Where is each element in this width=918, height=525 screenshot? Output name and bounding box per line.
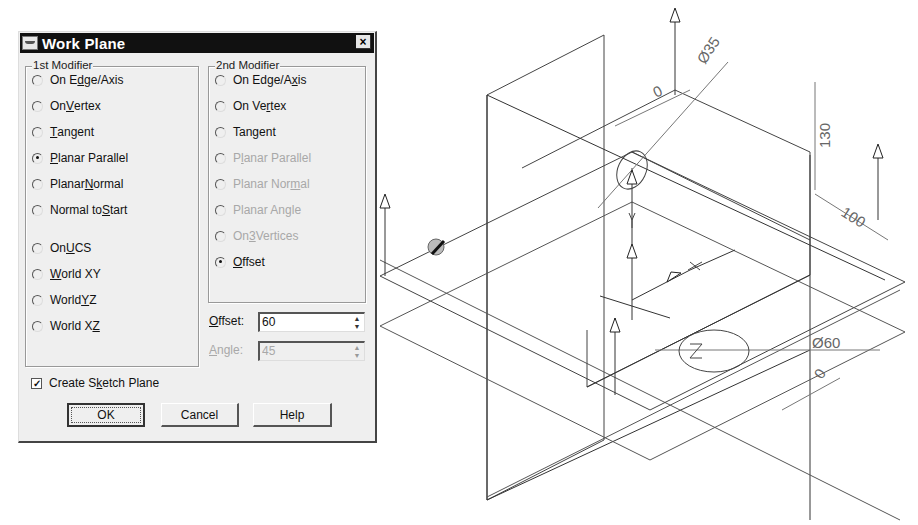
cone-arrow-icon xyxy=(610,318,620,332)
radio-unchecked-icon[interactable] xyxy=(32,243,43,254)
cone-arrow-icon xyxy=(627,244,637,258)
bottom-plane xyxy=(380,202,905,460)
second-modifier-label: 2nd Modifier xyxy=(215,59,280,71)
rotate-handle-icon xyxy=(428,239,444,255)
dim-zero-top: 0 xyxy=(650,82,665,101)
radio-option[interactable]: World YZ xyxy=(32,293,96,307)
work-plane-app-icon xyxy=(22,36,38,50)
radio-option[interactable]: On Vertex xyxy=(32,99,101,113)
radio-option[interactable]: World XY xyxy=(32,267,101,281)
radio-checked-icon[interactable] xyxy=(215,257,226,268)
radio-unchecked-icon xyxy=(215,205,226,216)
close-button[interactable]: × xyxy=(356,35,371,49)
radio-option[interactable]: Tangent xyxy=(32,125,94,139)
first-modifier-label: 1st Modifier xyxy=(32,59,93,71)
angle-input[interactable] xyxy=(262,344,342,358)
radio-option: Planar Parallel xyxy=(215,151,311,165)
radio-unchecked-icon[interactable] xyxy=(32,101,43,112)
second-modifier-group: 2nd Modifier On Edge/AxisOn VertexTangen… xyxy=(208,66,366,303)
radio-unchecked-icon[interactable] xyxy=(32,179,43,190)
radio-option[interactable]: On Edge/Axis xyxy=(32,73,123,87)
dim-depth-100: 100 xyxy=(838,203,868,231)
box-outline xyxy=(522,90,810,387)
checkmark-icon[interactable]: ✓ xyxy=(31,378,42,389)
cone-arrow-icon xyxy=(873,144,883,158)
radio-option[interactable]: World XZ xyxy=(32,319,100,333)
spin-down-icon[interactable]: ▼ xyxy=(351,352,363,360)
dim-diameter-60: Ø60 xyxy=(812,334,840,351)
cone-arrow-icon xyxy=(380,194,390,208)
radio-unchecked-icon[interactable] xyxy=(32,295,43,306)
radio-option[interactable]: On Vertex xyxy=(215,99,286,113)
help-button[interactable]: Help xyxy=(253,403,332,427)
radio-option[interactable]: Planar Normal xyxy=(32,177,123,191)
radio-option: Planar Angle xyxy=(215,203,301,217)
radio-option[interactable]: Tangent xyxy=(215,125,276,139)
radio-unchecked-icon xyxy=(215,231,226,242)
angle-spinner[interactable]: ▲▼ xyxy=(258,341,365,361)
cad-viewport[interactable]: Ø35 0 130 100 Ø60 0 xyxy=(377,0,918,525)
radio-option[interactable]: Normal to Start xyxy=(32,203,127,217)
spin-down-icon[interactable]: ▼ xyxy=(351,323,363,331)
work-plane-dialog: Work Plane × 1st Modifier On Edge/AxisOn… xyxy=(18,31,377,443)
cone-arrow-icon xyxy=(627,170,637,184)
cone-arrow-icon xyxy=(667,272,681,282)
radio-option[interactable]: On UCS xyxy=(32,241,91,255)
radio-unchecked-icon[interactable] xyxy=(32,127,43,138)
hole-ellipse-bottom xyxy=(679,330,749,372)
radio-option[interactable]: On Edge/Axis xyxy=(215,73,306,87)
first-modifier-group: 1st Modifier On Edge/AxisOn VertexTangen… xyxy=(25,66,199,367)
radio-option[interactable]: Offset xyxy=(215,255,265,269)
radio-option: Planar Normal xyxy=(215,177,310,191)
ok-button[interactable]: OK xyxy=(67,403,145,427)
radio-unchecked-icon xyxy=(215,153,226,164)
radio-unchecked-icon[interactable] xyxy=(32,75,43,86)
radio-unchecked-icon[interactable] xyxy=(215,75,226,86)
radio-checked-icon[interactable] xyxy=(32,153,43,164)
close-icon: × xyxy=(359,35,366,49)
cone-arrow-icon xyxy=(670,8,680,22)
dialog-titlebar[interactable]: Work Plane × xyxy=(20,33,374,53)
spin-up-icon[interactable]: ▲ xyxy=(351,315,363,323)
vertical-plane-a xyxy=(487,35,604,500)
cancel-button[interactable]: Cancel xyxy=(161,403,239,427)
create-sketch-plane-checkbox[interactable]: ✓ Create Sketch Plane xyxy=(31,376,159,390)
dim-zero-bottom: 0 xyxy=(810,365,829,381)
radio-unchecked-icon[interactable] xyxy=(215,127,226,138)
radio-unchecked-icon xyxy=(215,179,226,190)
offset-spinner[interactable]: ▲▼ xyxy=(258,312,365,332)
radio-option: On 3 Vertices xyxy=(215,229,298,243)
radio-option[interactable]: Planar Parallel xyxy=(32,151,128,165)
offset-label: Offset: xyxy=(209,314,244,328)
radio-unchecked-icon[interactable] xyxy=(32,205,43,216)
dim-diameter-35: Ø35 xyxy=(693,34,723,67)
spin-up-icon[interactable]: ▲ xyxy=(351,344,363,352)
radio-unchecked-icon[interactable] xyxy=(32,321,43,332)
angle-label: Angle: xyxy=(209,343,243,357)
offset-input[interactable] xyxy=(262,315,342,329)
dim-height-130: 130 xyxy=(816,123,833,148)
radio-unchecked-icon[interactable] xyxy=(32,269,43,280)
radio-unchecked-icon[interactable] xyxy=(215,101,226,112)
dialog-title: Work Plane xyxy=(42,35,125,52)
vertical-plane-b xyxy=(487,95,885,280)
